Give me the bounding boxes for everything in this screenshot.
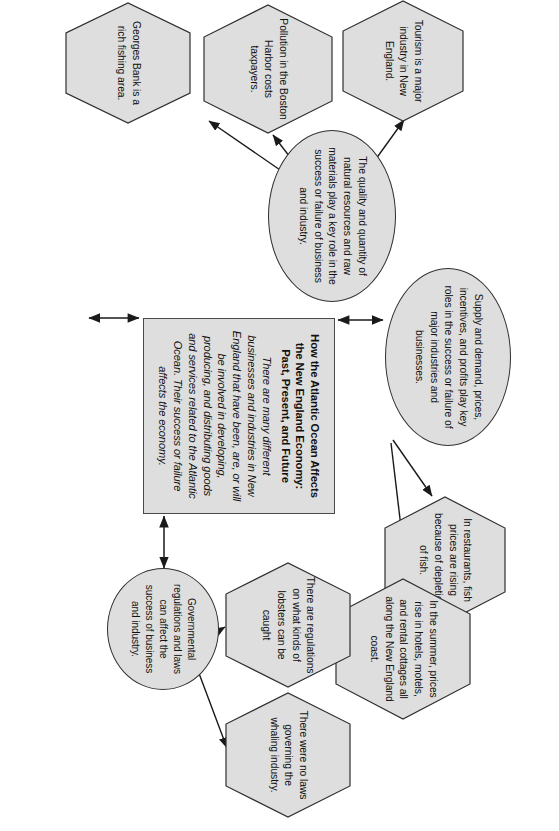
example-label-whaling-laws: There were no laws governing the whaling… <box>225 692 351 818</box>
example-node-georges-bank[interactable]: Georges Bank is a rich fishing area. <box>65 2 191 124</box>
example-label-lobster-regulations: There are regulations on what kinds of l… <box>225 562 351 688</box>
rotated-diagram-wrapper: How the Atlantic Ocean Affects the New E… <box>0 0 559 831</box>
example-label-georges-bank: Georges Bank is a rich fishing area. <box>65 2 191 124</box>
connector-supply-to-fish-prices <box>393 440 432 496</box>
central-topic-body: There are many different businesses and … <box>156 329 274 503</box>
example-label-boston-harbor-pollution: Pollution in the Boston Harbor costs tax… <box>203 4 333 134</box>
branch-node-natural-resources[interactable]: The quality and quantity of natural reso… <box>268 130 396 302</box>
branch-node-supply-demand[interactable]: Supply and demand, prices, incentives, a… <box>385 268 511 446</box>
example-node-summer-lodging-prices[interactable]: In the summer, prices rise in hotels, mo… <box>335 578 471 720</box>
example-label-tourism: Tourism is a major industry in New Engla… <box>342 0 464 122</box>
branch-label-supply-demand: Supply and demand, prices, incentives, a… <box>411 285 484 429</box>
branch-label-government-regulation: Governmental regulations and laws can af… <box>128 581 199 677</box>
example-node-tourism[interactable]: Tourism is a major industry in New Engla… <box>342 0 464 122</box>
concept-map-canvas: How the Atlantic Ocean Affects the New E… <box>0 0 559 831</box>
central-topic-box[interactable]: How the Atlantic Ocean Affects the New E… <box>143 318 335 514</box>
branch-label-natural-resources: The quality and quantity of natural reso… <box>295 147 368 285</box>
example-node-whaling-laws[interactable]: There were no laws governing the whaling… <box>225 692 351 818</box>
branch-node-government-regulation[interactable]: Governmental regulations and laws can af… <box>107 568 219 690</box>
example-node-lobster-regulations[interactable]: There are regulations on what kinds of l… <box>225 562 351 688</box>
example-node-boston-harbor-pollution[interactable]: Pollution in the Boston Harbor costs tax… <box>203 4 333 134</box>
central-topic-title: How the Atlantic Ocean Affects the New E… <box>278 329 323 503</box>
example-label-summer-lodging-prices: In the summer, prices rise in hotels, mo… <box>335 578 471 720</box>
